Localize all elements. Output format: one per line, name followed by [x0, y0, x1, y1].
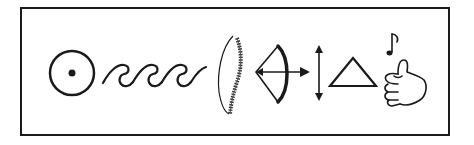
symbol-label-1: circle with dot — [0, 0, 1, 1]
symbol-label-4: bow and arrow — [0, 0, 1, 1]
symbol-label-6: triangle — [0, 0, 1, 1]
bow-and-arrow-icon — [254, 44, 312, 104]
figure-title: Symbol sequence — [22, 9, 23, 10]
triangle-icon — [328, 56, 378, 90]
symbol-label-2: waves — [0, 0, 1, 1]
waves-icon — [100, 60, 212, 96]
symbol-label-5: vertical double arrow — [0, 0, 1, 1]
thumbs-up-music-icon — [382, 32, 432, 112]
vertical-double-arrow-icon — [312, 45, 326, 101]
spine-icon — [215, 34, 249, 116]
circle-dot-icon — [46, 48, 98, 98]
symbol-label-3: spine — [0, 0, 1, 1]
symbol-label-7: thumbs up with music note — [0, 0, 1, 1]
